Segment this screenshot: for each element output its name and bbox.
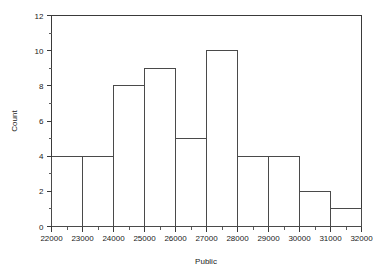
x-tick-label: 24000 — [102, 234, 125, 243]
histogram-chart: 2200023000240002500026000270002800029000… — [0, 0, 379, 271]
histogram-bar — [83, 156, 114, 226]
x-axis-tick-labels: 2200023000240002500026000270002800029000… — [40, 234, 373, 243]
x-tick-label: 25000 — [133, 234, 156, 243]
y-tick-label: 10 — [35, 47, 44, 56]
y-axis-title: Count — [10, 110, 19, 132]
histogram-bar — [331, 209, 362, 227]
x-tick-label: 26000 — [164, 234, 187, 243]
x-tick-label: 23000 — [71, 234, 94, 243]
histogram-bar — [52, 156, 83, 226]
y-axis-tick-labels: 024681012 — [35, 12, 44, 232]
y-axis-ticks — [47, 16, 52, 227]
x-tick-label: 32000 — [350, 234, 373, 243]
y-tick-label: 0 — [39, 223, 44, 232]
x-tick-label: 28000 — [226, 234, 249, 243]
y-tick-label: 6 — [39, 117, 44, 126]
histogram-bar — [114, 86, 145, 227]
y-tick-label: 8 — [39, 82, 44, 91]
y-tick-label: 2 — [39, 187, 44, 196]
histogram-bar — [145, 68, 176, 226]
chart-canvas: 2200023000240002500026000270002800029000… — [0, 0, 379, 271]
histogram-bar — [238, 156, 269, 226]
y-tick-label: 4 — [39, 152, 44, 161]
x-tick-label: 27000 — [195, 234, 218, 243]
histogram-bar — [300, 191, 331, 226]
x-tick-label: 30000 — [288, 234, 311, 243]
x-axis-ticks — [52, 227, 362, 232]
x-tick-label: 31000 — [319, 234, 342, 243]
x-tick-label: 22000 — [40, 234, 63, 243]
histogram-bar — [176, 139, 207, 227]
histogram-bar — [207, 51, 238, 227]
x-axis-title: Public — [195, 257, 217, 266]
x-tick-label: 29000 — [257, 234, 280, 243]
y-tick-label: 12 — [35, 12, 44, 21]
histogram-bar — [269, 156, 300, 226]
bars-group — [52, 51, 362, 227]
